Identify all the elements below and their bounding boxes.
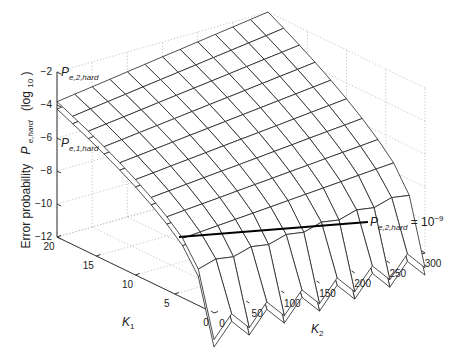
mesh-surfaces: [57, 12, 425, 347]
k2-tick-label: 250: [389, 268, 406, 279]
z-tick: [57, 204, 61, 206]
k1-tick-label: 15: [83, 260, 95, 271]
k1-tick: [175, 293, 179, 295]
z-axis-label: Error probability P e,hard (log 10 ): [19, 71, 36, 248]
k2-tick: [422, 251, 425, 253]
surface-plot: −12−10−8−6−4−205101520050100150200250300…: [0, 0, 458, 349]
z-label-unit-close: ): [19, 71, 33, 75]
z-label-sub: e,hard: [26, 120, 35, 143]
z-label-main: Error probability: [19, 164, 33, 249]
k2-label-sub: 2: [319, 329, 324, 338]
z-label-unit: (log: [19, 91, 33, 111]
k1-label-sub: 1: [130, 322, 135, 331]
series-label-pe2: Pe,2,hard: [61, 65, 99, 82]
k2-tick-label: 150: [319, 288, 336, 299]
k1-tick: [136, 274, 140, 276]
z-tick-label: −2: [41, 66, 53, 77]
svg-text:Error probability P: Error probability P e,hard (log 10 ): [19, 71, 36, 248]
z-tick-label: −4: [41, 99, 53, 110]
z-tick-label: −8: [41, 165, 53, 176]
k2-axis-label: K2: [311, 322, 324, 338]
z-tick: [57, 171, 61, 173]
k1-tick: [96, 255, 100, 257]
z-tick-label: −10: [35, 198, 52, 209]
z-tick-label: −6: [41, 132, 53, 143]
z-label-sym: P: [19, 146, 33, 154]
k2-tick-label: 0: [219, 318, 225, 329]
k1-tick: [57, 236, 61, 238]
k1-tick-label: 5: [164, 298, 170, 309]
k2-tick-label: 300: [425, 258, 442, 269]
k1-axis-label: K1: [122, 315, 135, 331]
k1-tick-label: 20: [43, 241, 55, 252]
k2-tick-label: 200: [354, 278, 371, 289]
k2-tick-label: 50: [252, 308, 264, 319]
z-label-unit-sub: 10: [26, 78, 35, 87]
k1-tick-label: 0: [203, 317, 209, 328]
k2-tick-label: 100: [284, 298, 301, 309]
k1-tick-label: 10: [122, 279, 134, 290]
